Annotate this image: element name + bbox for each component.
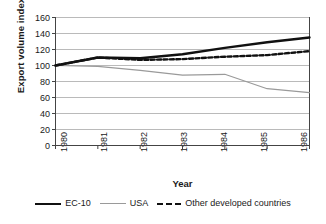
chart-legend: EC-10 USA Other developed countries (0, 198, 326, 209)
x-axis-label: Year (55, 178, 310, 189)
export-volume-index-chart: Export volume index 160 140 120 100 80 6… (0, 0, 326, 224)
gridlines (56, 18, 310, 130)
y-axis-ticks (52, 18, 56, 146)
legend-label: Other developed countries (185, 198, 291, 209)
legend-item-ec-10: EC-10 (35, 198, 91, 209)
legend-label: USA (130, 198, 149, 209)
legend-item-other-developed-countries: Other developed countries (157, 198, 291, 209)
legend-swatch-dashed-icon (157, 203, 181, 205)
legend-label: EC-10 (65, 198, 91, 209)
legend-item-usa: USA (100, 198, 149, 209)
series-line-ec-10 (56, 38, 310, 66)
legend-swatch-solid-thick-icon (35, 203, 61, 205)
x-axis-ticks (56, 146, 310, 150)
series-line-usa (56, 66, 310, 93)
legend-swatch-solid-thin-icon (100, 203, 126, 204)
plot-area (0, 0, 326, 224)
